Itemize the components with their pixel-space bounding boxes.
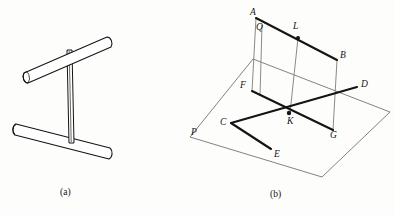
vertex-label-P: P: [191, 128, 197, 138]
panel-caption-a: (a): [60, 188, 71, 198]
vertex-label-B: B: [340, 51, 346, 61]
panel-a-drawing: [13, 37, 112, 159]
panel-caption-b: (b): [270, 190, 281, 200]
segment-C-D: [231, 87, 357, 123]
segment-B-G: [333, 60, 337, 130]
vertex-label-L: L: [293, 22, 298, 32]
vertex-label-A: A: [250, 8, 256, 18]
vertex-label-D: D: [361, 80, 368, 90]
panel-b-drawing: [190, 18, 390, 177]
segment-Q-K: [260, 25, 262, 96]
point-K-marker: [287, 111, 291, 115]
vertex-label-F: F: [240, 81, 246, 91]
vertex-label-K: K: [287, 117, 293, 127]
vertex-label-G: G: [330, 131, 337, 141]
vertex-label-E: E: [274, 150, 280, 160]
vertex-label-C: C: [220, 118, 226, 128]
vertex-label-Q: Q: [256, 23, 263, 33]
figure-container: A Q L B F D K C G E P (a) (b): [0, 0, 395, 216]
point-L-marker: [296, 36, 300, 40]
segment-C-E: [231, 123, 271, 149]
figure-drawing: [0, 0, 395, 216]
lower-rod: [13, 124, 112, 159]
